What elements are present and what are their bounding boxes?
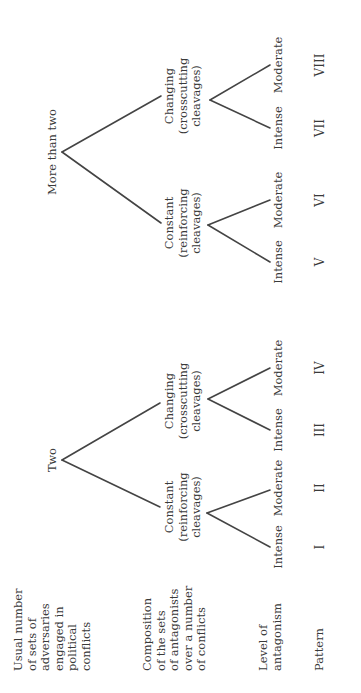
node-more-than-two: More than two: [46, 109, 60, 195]
row-label-antagonism: Level of antagonism: [257, 603, 284, 671]
node-two: Two: [46, 448, 60, 472]
node-more-constant: Constant (reinforcing cleavages): [163, 188, 204, 257]
row-label-adversaries: Usual number of sets of adversaries enga…: [12, 588, 93, 671]
pattern-1: I: [313, 545, 327, 550]
pattern-5: V: [313, 258, 327, 267]
pattern-3: III: [313, 423, 327, 437]
conflict-patterns-diagram: Usual number of sets of adversaries enga…: [0, 0, 361, 693]
row-label-pattern: Pattern: [313, 628, 327, 671]
edge-two-changing: [62, 403, 160, 460]
edge-two-constant: [62, 460, 160, 507]
edge-more-constant-intense: [208, 225, 270, 262]
leaf-two-constant-moderate: Moderate: [272, 460, 286, 517]
leaf-more-changing-moderate: Moderate: [272, 37, 286, 94]
pattern-7: VII: [313, 119, 327, 137]
node-more-changing: Changing (crosscutting cleavages): [163, 58, 204, 135]
pattern-8: VIII: [313, 54, 327, 77]
edge-more-constant-moderate: [208, 200, 270, 225]
leaf-more-changing-intense: Intense: [272, 106, 286, 150]
edge-more-changing: [62, 96, 161, 152]
edge-two-changing-moderate: [208, 368, 270, 399]
leaf-two-changing-intense: Intense: [272, 408, 286, 452]
node-two-changing: Changing (crosscutting cleavages): [163, 363, 204, 440]
pattern-4: IV: [313, 361, 327, 374]
edge-two-constant-moderate: [207, 490, 270, 513]
edge-more-changing-intense: [210, 100, 270, 128]
pattern-2: II: [313, 483, 327, 492]
leaf-more-constant-intense: Intense: [272, 240, 286, 284]
edge-more-changing-moderate: [210, 65, 270, 100]
leaf-two-changing-moderate: Moderate: [272, 340, 286, 397]
node-two-constant: Constant (reinforcing cleavages): [163, 472, 204, 541]
pattern-6: VI: [313, 193, 327, 206]
edge-more-constant: [62, 152, 161, 223]
leaf-two-constant-intense: Intense: [272, 525, 286, 569]
edge-two-constant-intense: [207, 513, 270, 547]
edge-two-changing-intense: [208, 399, 270, 430]
row-label-composition: Composition of the sets of antagonists o…: [141, 586, 209, 671]
leaf-more-constant-moderate: Moderate: [272, 172, 286, 229]
